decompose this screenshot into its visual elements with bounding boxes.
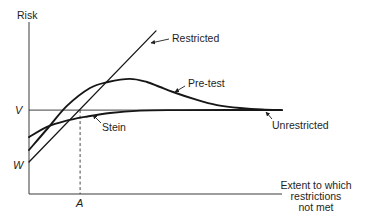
stein-label: Stein (102, 121, 126, 133)
x-axis-label-line3: not met (298, 201, 333, 213)
unrestricted-arrow-icon (266, 112, 272, 119)
restricted-line (29, 31, 156, 162)
pretest-curve (29, 79, 282, 150)
restricted-label: Restricted (172, 32, 219, 44)
pretest-arrow-icon (175, 86, 185, 92)
v-level-label: V (15, 104, 24, 116)
stein-arrow-icon (93, 115, 101, 123)
y-axis-label: Risk (17, 9, 38, 21)
w-level-label: W (13, 159, 25, 171)
pretest-label: Pre-test (188, 77, 225, 89)
risk-chart: Risk Extent to which restrictions not me… (0, 0, 367, 222)
restricted-arrow-icon (151, 39, 169, 43)
a-point-label: A (75, 197, 83, 209)
unrestricted-label: Unrestricted (272, 119, 329, 131)
